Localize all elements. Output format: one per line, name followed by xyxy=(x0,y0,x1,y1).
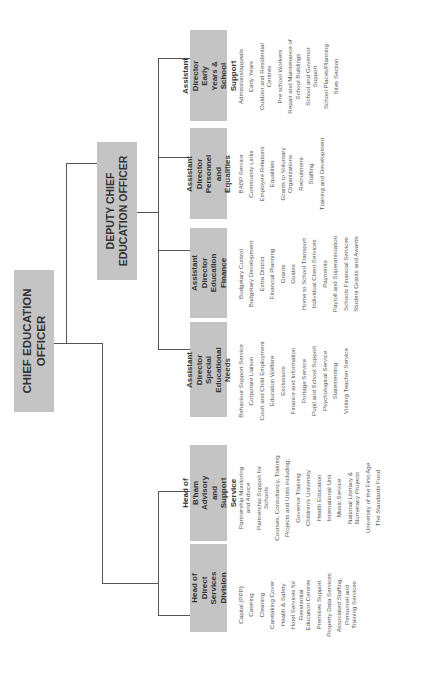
list-item: Budgetary Development xyxy=(247,226,254,322)
connector xyxy=(158,58,159,350)
list-item: Outdoor and Residential Centres xyxy=(258,29,273,124)
list-item: Cleaning xyxy=(258,560,265,650)
list-item: Portage Service xyxy=(300,325,307,437)
list-item: Payroll and Superannuation xyxy=(331,226,338,322)
list-item: Corporate Liaison xyxy=(247,325,254,437)
list-item: Catering xyxy=(247,560,254,650)
list-item: Courses, Consultancy, Training xyxy=(273,442,280,554)
list-item: Exclusions xyxy=(279,325,286,437)
connector xyxy=(102,583,158,584)
list-item: Schools Financial Services xyxy=(342,226,349,322)
chief-title: CHIEF EDUCATION OFFICER xyxy=(20,281,48,401)
list-item: Health & Safety xyxy=(279,560,286,650)
connector xyxy=(66,343,103,344)
list-item: Finance and Information xyxy=(289,325,296,437)
list-item: Sites Section xyxy=(332,29,339,124)
dept-box-direct-services: Head of Direct Services Division xyxy=(190,544,227,632)
list-item: Employee Relations xyxy=(258,126,265,222)
list-item: National Literacy & Numeracy Projects xyxy=(346,442,361,554)
list-item: School and Governor Support xyxy=(304,29,319,124)
list-item: Health Education xyxy=(315,442,322,554)
list-item: Staffing xyxy=(307,126,314,222)
list-item: Admissions/appeals xyxy=(237,29,244,124)
list-item: Equalities xyxy=(268,126,275,222)
list-item: Statementing xyxy=(331,325,338,437)
list-item: BABP Service xyxy=(237,126,244,222)
list-item: Pupil and School Support xyxy=(310,325,317,437)
list-item: Property Data Services xyxy=(325,560,332,650)
item-list: BABP ServiceCommunity LinksEmployee Rela… xyxy=(237,126,325,222)
chief-education-officer-box: CHIEF EDUCATION OFFICER xyxy=(14,270,54,412)
list-item: Extra District xyxy=(258,226,265,322)
list-item: Pre school Workers xyxy=(276,29,283,124)
list-item: School Places/Planning xyxy=(322,29,329,124)
connector xyxy=(102,343,103,583)
deputy-title: DEPUTY CHIEF EDUCATION OFFICER xyxy=(104,151,130,271)
list-item: Children's University xyxy=(304,442,311,554)
list-item: Grants to Voluntary Organizations xyxy=(279,126,294,222)
list-item: Projects and Units including; xyxy=(283,442,290,554)
list-item: Guides xyxy=(289,226,296,322)
list-item: Community Links xyxy=(247,126,254,222)
dept-title: Assistant Director Personnel and Equalit… xyxy=(185,154,233,193)
dept-title: Assistant Director Special Educational N… xyxy=(185,347,233,392)
dept-box-early-years: Assistant Director Early Years & School … xyxy=(190,30,227,121)
list-item: Psychological Service xyxy=(321,325,328,437)
dept-box-finance: Assistant Director Education Finance xyxy=(190,228,227,318)
connector xyxy=(54,343,66,344)
connector xyxy=(137,212,158,213)
list-item: Behaviour Support Service xyxy=(237,325,244,437)
list-item: Financial Planning xyxy=(268,226,275,322)
item-list: Admissions/appealsEarly YearsOutdoor and… xyxy=(237,29,340,124)
dept-title: Assistant Director Early Years & School … xyxy=(180,57,237,93)
list-item: Grants xyxy=(279,226,286,322)
deputy-chief-box: DEPUTY CHIEF EDUCATION OFFICER xyxy=(97,142,137,280)
list-item: Budgetary Control xyxy=(237,226,244,322)
dept-box-sen: Assistant Director Special Educational N… xyxy=(190,322,227,417)
connector xyxy=(66,163,67,343)
list-item: Student Grants and Awards xyxy=(352,226,359,322)
item-list: Behaviour Support ServiceCorporate Liais… xyxy=(237,325,349,437)
list-item: Individual Client Services xyxy=(310,226,317,322)
list-item: Partnership Monitoring and Advice xyxy=(237,442,252,554)
list-item: Payments xyxy=(321,226,328,322)
dept-box-advisory: Head of B'ham Advisory and Support Servi… xyxy=(190,445,227,541)
list-item: Hotel Services for Residential Education… xyxy=(289,560,311,650)
item-list: Partnership Monitoring and AdvicePartner… xyxy=(237,442,382,554)
connector xyxy=(158,615,190,616)
dept-title: Head of B'ham Advisory and Support Servi… xyxy=(180,476,237,510)
item-list: Budgetary ControlBudgetary DevelopmentEx… xyxy=(237,226,360,322)
connector xyxy=(66,163,97,164)
dept-title: Head of Direct Services Division xyxy=(190,572,228,605)
list-item: Governor Training xyxy=(294,442,301,554)
list-item: Court and Child Employment xyxy=(258,325,265,437)
list-item: Capital (PPP) xyxy=(237,560,244,650)
list-item: Premises Support xyxy=(315,560,322,650)
list-item: Associated Staffing, Personnel and Train… xyxy=(335,560,357,650)
item-list: Capital (PPP)CateringCleaningCaretaking … xyxy=(237,560,357,650)
list-item: Music Service xyxy=(335,442,342,554)
list-item: International Unit xyxy=(325,442,332,554)
list-item: Partnership Support for Schools xyxy=(255,442,270,554)
list-item: Training and Development xyxy=(318,126,325,222)
list-item: Education Welfare xyxy=(268,325,275,437)
list-item: Caretaking Cover xyxy=(268,560,275,650)
connector xyxy=(158,250,190,251)
connector xyxy=(158,491,159,615)
list-item: Visiting Teacher Service xyxy=(342,325,349,437)
list-item: Home to School Transport xyxy=(300,226,307,322)
list-item: Repair and Maintenance of School Buildin… xyxy=(286,29,301,124)
list-item: Recruitment xyxy=(297,126,304,222)
dept-title: Assistant Director Education Finance xyxy=(190,254,228,293)
list-item: University of the First Age xyxy=(364,442,371,554)
dept-box-personnel: Assistant Director Personnel and Equalit… xyxy=(190,128,227,219)
list-item: Early Years xyxy=(247,29,254,124)
list-item: The Standards Fund xyxy=(374,442,381,554)
